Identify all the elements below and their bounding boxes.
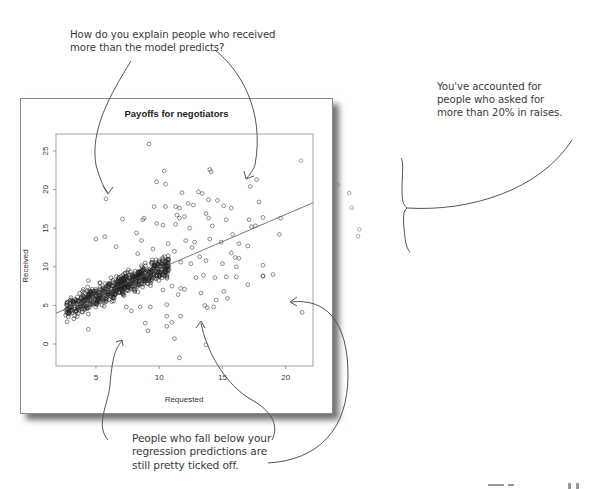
regression-line bbox=[56, 203, 313, 314]
arrowhead-icon bbox=[116, 340, 123, 346]
x-axis-label: Requested bbox=[165, 395, 204, 404]
svg-text:0: 0 bbox=[41, 341, 50, 346]
data-points bbox=[86, 142, 304, 360]
svg-text:20: 20 bbox=[41, 185, 50, 194]
svg-text:5: 5 bbox=[41, 303, 50, 308]
offchart-points bbox=[299, 159, 361, 238]
annotation-right: You've accounted for people who asked fo… bbox=[437, 80, 562, 119]
arrow-bottom-center bbox=[201, 323, 275, 440]
arrowhead-icon bbox=[196, 321, 205, 328]
dense-data-cluster bbox=[64, 254, 171, 324]
svg-text:10: 10 bbox=[41, 262, 50, 271]
svg-text:25: 25 bbox=[41, 146, 50, 155]
svg-text:20: 20 bbox=[281, 373, 290, 382]
svg-text:15: 15 bbox=[41, 223, 50, 232]
arrow-top-right bbox=[215, 50, 257, 178]
clipped-heading-fragment bbox=[470, 480, 590, 489]
arrow-top-left bbox=[95, 61, 131, 193]
arrow-bottom-left bbox=[102, 341, 122, 440]
annotation-top: How do you explain people who received m… bbox=[70, 28, 275, 54]
y-axis: 0510152025 bbox=[41, 146, 56, 346]
annotation-bottom: People who fall below your regression pr… bbox=[132, 432, 271, 472]
scatter-plot: 5101520 0510152025 Requested Received bbox=[0, 0, 590, 489]
svg-text:5: 5 bbox=[94, 373, 99, 382]
plot-area bbox=[56, 134, 313, 366]
brace-icon bbox=[401, 158, 410, 252]
svg-text:10: 10 bbox=[155, 373, 164, 382]
arrow-bottom-right bbox=[268, 302, 348, 463]
x-axis: 5101520 bbox=[94, 366, 291, 382]
y-axis-label: Received bbox=[21, 249, 30, 282]
arrow-right-curve bbox=[407, 140, 572, 208]
